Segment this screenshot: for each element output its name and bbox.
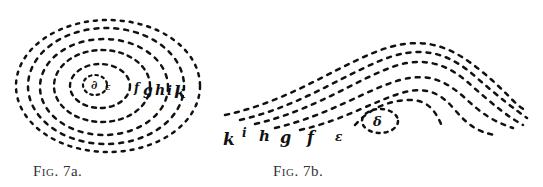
label-f: f (133, 81, 141, 95)
label-epsilon: ε (105, 82, 111, 92)
figure-7a-drawing: ∂ ε f g h i k (0, 0, 220, 187)
figure-7a-labels: ∂ ε f g h i k (91, 78, 186, 102)
caption-prefix: Fig. (33, 163, 59, 179)
caption-number: 7b. (303, 163, 323, 179)
figure-7b-labels: k i h g f ε δ (223, 114, 382, 149)
label-h: h (259, 127, 270, 145)
label-h: h (155, 82, 165, 98)
figure-7b: k i h g f ε δ (215, 0, 543, 187)
label-g: g (143, 82, 153, 98)
label-i: i (167, 83, 172, 98)
figure-7a: ∂ ε f g h i k (0, 0, 220, 187)
label-f: f (306, 128, 317, 147)
label-delta: δ (372, 114, 382, 129)
caption-fig-7a: Fig. 7a. (33, 163, 82, 180)
caption-number: 7a. (63, 163, 82, 179)
label-epsilon: ε (335, 130, 343, 144)
label-k: k (174, 82, 186, 102)
label-k: k (223, 129, 235, 149)
figure-7b-drawing: k i h g f ε δ (215, 0, 543, 187)
label-i: i (242, 126, 247, 140)
caption-prefix: Fig. (273, 163, 299, 179)
label-partial: ∂ (91, 78, 97, 92)
label-g: g (280, 128, 291, 147)
caption-fig-7b: Fig. 7b. (273, 163, 323, 180)
